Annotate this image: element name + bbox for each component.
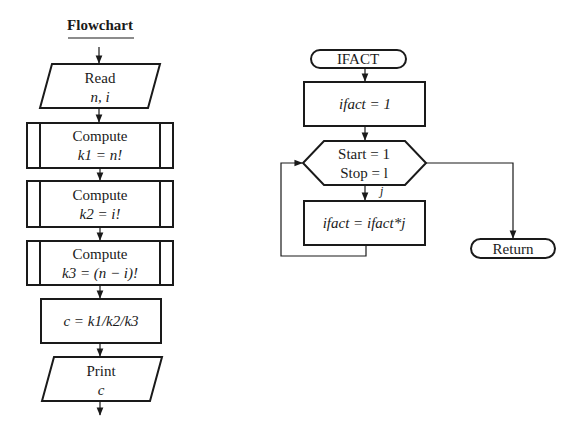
assign-expr: c = k1/k2/k3 <box>63 313 138 329</box>
body-expr: ifact = ifact*j <box>323 215 406 231</box>
flowchart-title: Flowchart <box>67 17 133 33</box>
compute3-expr: k3 = (n − i)! <box>62 265 138 282</box>
read-input-node: Read n, i <box>40 64 160 108</box>
start-label: IFACT <box>337 51 379 67</box>
init-ifact-node: ifact = 1 <box>304 82 425 126</box>
left-flowchart: Flowchart Read n, i Compute k1 = n! Comp… <box>27 17 173 415</box>
assign-c-node: c = k1/k2/k3 <box>41 299 161 343</box>
loop-stop: Stop = l <box>340 165 388 181</box>
flowchart-diagram: Flowchart Read n, i Compute k1 = n! Comp… <box>0 0 576 442</box>
ifact-start-terminator: IFACT <box>311 50 406 68</box>
compute-k3-node: Compute k3 = (n − i)! <box>27 241 173 285</box>
return-label: Return <box>493 241 534 257</box>
print-vars: c <box>98 382 105 398</box>
print-label: Print <box>86 363 116 379</box>
read-vars: n, i <box>90 89 109 105</box>
compute1-expr: k1 = n! <box>78 147 122 163</box>
compute2-expr: k2 = i! <box>80 206 121 222</box>
loop-index-label: j <box>378 184 384 198</box>
loop-start: Start = 1 <box>338 146 390 162</box>
compute1-label: Compute <box>73 128 128 144</box>
right-flowchart: IFACT ifact = 1 Start = 1 Stop = l j ifa… <box>281 50 555 258</box>
return-terminator: Return <box>471 239 555 258</box>
print-output-node: Print c <box>42 357 162 401</box>
init-expr: ifact = 1 <box>339 96 391 112</box>
arrow-loop-to-return <box>426 163 513 238</box>
read-label: Read <box>85 70 116 86</box>
compute3-label: Compute <box>73 246 128 262</box>
compute-k1-node: Compute k1 = n! <box>27 123 173 168</box>
compute2-label: Compute <box>73 187 128 203</box>
compute-k2-node: Compute k2 = i! <box>27 181 173 227</box>
loop-hexagon-node: Start = 1 Stop = l <box>303 141 426 185</box>
loop-body-node: ifact = ifact*j <box>304 201 425 245</box>
